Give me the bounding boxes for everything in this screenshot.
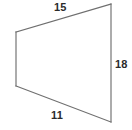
side-label-top: 15 [54,1,67,13]
side-label-bottom: 11 [51,109,63,121]
side-label-right: 18 [115,58,128,70]
quadrilateral-drawing [0,0,132,130]
geometry-figure: 15 18 11 [0,0,132,130]
